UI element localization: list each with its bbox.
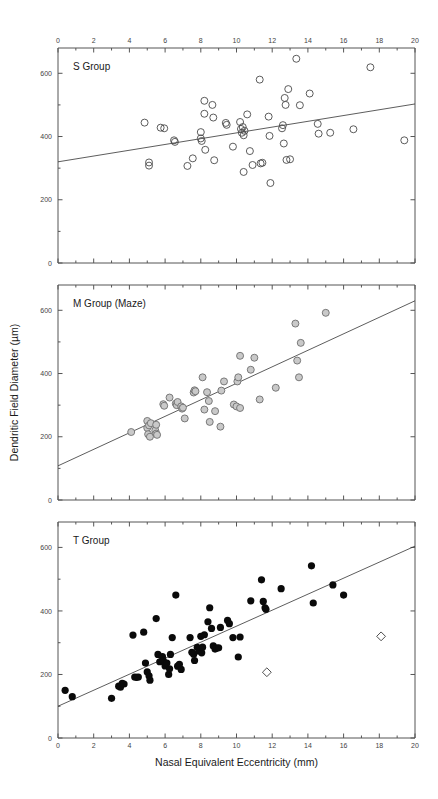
data-point xyxy=(189,155,196,162)
data-point xyxy=(310,599,317,606)
ytick-label-600: 600 xyxy=(40,70,52,77)
xtick-label-0: 0 xyxy=(56,37,60,44)
data-point xyxy=(281,94,288,101)
data-point xyxy=(181,415,188,422)
xtick-label-16: 16 xyxy=(340,37,348,44)
data-point xyxy=(267,180,274,187)
data-point xyxy=(246,148,253,155)
data-point xyxy=(140,629,147,636)
panel-title-2: T Group xyxy=(73,535,110,546)
data-point xyxy=(153,421,160,428)
xtick-label-16: 16 xyxy=(340,742,348,749)
data-point xyxy=(169,634,176,641)
xtick-label-8: 8 xyxy=(199,742,203,749)
data-point xyxy=(179,404,186,411)
data-point xyxy=(249,161,256,168)
xtick-label-0: 0 xyxy=(56,742,60,749)
xtick-label-20: 20 xyxy=(411,742,419,749)
xtick-label-8: 8 xyxy=(199,37,203,44)
data-point xyxy=(295,374,302,381)
data-point xyxy=(367,64,374,71)
xtick-label-20: 20 xyxy=(411,37,419,44)
xtick-label-4: 4 xyxy=(127,742,131,749)
data-point xyxy=(184,162,191,169)
xtick-label-6: 6 xyxy=(163,742,167,749)
outlier-point xyxy=(377,632,386,641)
data-point xyxy=(308,562,315,569)
scatter-figure: 020040060002468101214161820S Group020040… xyxy=(0,0,438,799)
data-point xyxy=(128,429,135,436)
data-point xyxy=(229,634,236,641)
data-point xyxy=(166,665,173,672)
data-point xyxy=(251,354,258,361)
data-point xyxy=(186,634,193,641)
data-point xyxy=(240,168,247,175)
ytick-label-600: 600 xyxy=(40,544,52,551)
data-point xyxy=(204,389,211,396)
outlier-point xyxy=(262,668,271,677)
data-point xyxy=(142,659,149,666)
data-point xyxy=(209,101,216,108)
data-point xyxy=(218,387,225,394)
data-point xyxy=(293,55,300,62)
data-point xyxy=(129,631,136,638)
data-point xyxy=(272,384,279,391)
xtick-label-10: 10 xyxy=(233,742,241,749)
data-point xyxy=(294,357,301,364)
data-point xyxy=(247,597,254,604)
data-point xyxy=(192,388,199,395)
ytick-label-400: 400 xyxy=(40,133,52,140)
xtick-label-10: 10 xyxy=(233,37,241,44)
y-axis-title: Dendritic Field Diameter (µm) xyxy=(8,324,20,461)
data-point xyxy=(135,673,142,680)
data-point xyxy=(306,90,313,97)
data-point xyxy=(201,97,208,104)
xtick-label-14: 14 xyxy=(304,37,312,44)
data-point xyxy=(201,406,208,413)
data-point xyxy=(314,120,321,127)
data-point xyxy=(211,157,218,164)
data-point xyxy=(221,378,228,385)
data-point xyxy=(282,101,289,108)
data-point xyxy=(256,396,263,403)
data-point xyxy=(199,374,206,381)
data-point xyxy=(315,130,322,137)
data-point xyxy=(266,132,273,139)
data-point xyxy=(247,366,254,373)
ytick-label-200: 200 xyxy=(40,671,52,678)
data-point xyxy=(329,581,336,588)
data-point xyxy=(256,76,263,83)
data-point xyxy=(206,418,213,425)
regression-line-0 xyxy=(58,104,415,162)
data-point xyxy=(280,140,287,147)
ytick-label-0: 0 xyxy=(48,497,52,504)
data-point xyxy=(285,86,292,93)
data-point xyxy=(201,631,208,638)
data-point xyxy=(350,126,357,133)
data-point xyxy=(146,677,153,684)
data-point xyxy=(153,615,160,622)
data-point xyxy=(205,398,212,405)
data-point xyxy=(167,651,174,658)
data-point xyxy=(215,644,222,651)
data-point xyxy=(229,143,236,150)
ytick-label-400: 400 xyxy=(40,370,52,377)
data-point xyxy=(191,657,198,664)
data-point xyxy=(235,653,242,660)
data-point xyxy=(210,114,217,121)
xtick-label-14: 14 xyxy=(304,742,312,749)
data-point xyxy=(141,119,148,126)
panel-title-0: S Group xyxy=(73,61,111,72)
ytick-label-200: 200 xyxy=(40,433,52,440)
xtick-label-4: 4 xyxy=(127,37,131,44)
data-point xyxy=(201,110,208,117)
data-point xyxy=(69,693,76,700)
data-point xyxy=(237,404,244,411)
data-point xyxy=(120,680,127,687)
data-point xyxy=(108,695,115,702)
data-point xyxy=(62,687,69,694)
xtick-label-2: 2 xyxy=(92,37,96,44)
data-point xyxy=(401,137,408,144)
figure-container: 020040060002468101214161820S Group020040… xyxy=(0,0,438,799)
ytick-label-400: 400 xyxy=(40,608,52,615)
